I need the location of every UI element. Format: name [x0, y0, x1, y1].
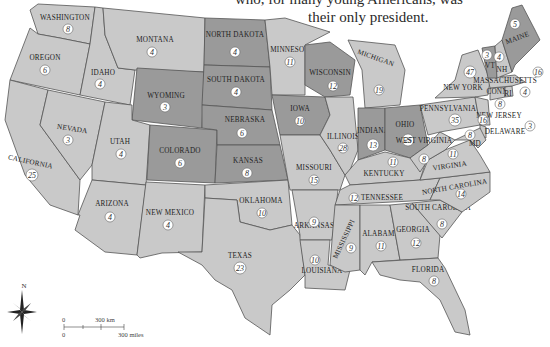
- svg-text:WISCONSIN: WISCONSIN: [309, 69, 351, 77]
- svg-text:IOWA: IOWA: [290, 105, 310, 113]
- svg-text:8: 8: [245, 169, 249, 178]
- svg-text:VT: VT: [485, 62, 495, 70]
- svg-text:NEW YORK: NEW YORK: [443, 84, 483, 92]
- svg-text:UTAH: UTAH: [110, 138, 130, 146]
- svg-text:3: 3: [65, 136, 70, 145]
- svg-text:MASSACHUSETTS: MASSACHUSETTS: [473, 77, 537, 85]
- state-arkansas[interactable]: ARKANSAS 9: [292, 190, 338, 240]
- state-new-mexico[interactable]: NEW MEXICO 4: [137, 182, 205, 258]
- svg-text:25: 25: [28, 171, 36, 180]
- svg-text:12: 12: [329, 82, 337, 91]
- svg-text:4: 4: [119, 150, 123, 159]
- svg-text:6: 6: [178, 159, 182, 168]
- svg-text:8: 8: [498, 100, 502, 109]
- state-montana[interactable]: MONTANA 4: [103, 8, 205, 72]
- svg-text:13: 13: [369, 141, 377, 150]
- state-wisconsin[interactable]: WISCONSIN 12: [305, 42, 355, 97]
- scale-bar: 0 300 km 0 300 miles: [62, 316, 144, 338]
- state-iowa[interactable]: IOWA 10: [272, 95, 330, 135]
- svg-text:14: 14: [457, 190, 465, 199]
- state-kansas[interactable]: KANSAS 8: [215, 145, 288, 183]
- svg-text:4: 4: [497, 53, 501, 62]
- state-colorado[interactable]: COLORADO 6: [147, 125, 217, 183]
- svg-text:4: 4: [108, 213, 112, 222]
- svg-text:GEORGIA: GEORGIA: [396, 226, 430, 234]
- svg-text:SOUTH DAKOTA: SOUTH DAKOTA: [207, 76, 266, 84]
- svg-text:4: 4: [150, 48, 154, 57]
- state-rhode-island[interactable]: RI 4: [504, 86, 530, 98]
- state-north-dakota[interactable]: NORTH DAKOTA 4: [204, 18, 270, 67]
- svg-text:WEST VIRGINIA: WEST VIRGINIA: [396, 137, 453, 145]
- svg-text:19: 19: [375, 86, 383, 95]
- state-south-dakota[interactable]: SOUTH DAKOTA 4: [202, 65, 272, 110]
- svg-text:4: 4: [166, 221, 170, 230]
- svg-text:8: 8: [422, 155, 426, 164]
- svg-text:DELAWARE: DELAWARE: [485, 128, 526, 136]
- svg-text:OHIO: OHIO: [396, 121, 415, 129]
- svg-text:15: 15: [310, 176, 318, 185]
- svg-text:28: 28: [339, 144, 347, 153]
- svg-text:16: 16: [534, 68, 542, 77]
- svg-text:NEBRASKA: NEBRASKA: [225, 116, 266, 124]
- svg-text:COLORADO: COLORADO: [159, 147, 201, 155]
- svg-text:300 km: 300 km: [95, 316, 115, 323]
- svg-text:PENNSYLVANIA: PENNSYLVANIA: [420, 105, 477, 113]
- state-michigan[interactable]: MICHIGAN 19: [348, 40, 405, 108]
- svg-text:WYOMING: WYOMING: [147, 92, 185, 100]
- svg-text:WASHINGTON: WASHINGTON: [40, 14, 90, 22]
- svg-text:12: 12: [412, 239, 420, 248]
- svg-text:10: 10: [258, 209, 266, 218]
- compass-rose-icon: N: [7, 282, 37, 334]
- svg-text:0: 0: [62, 331, 65, 338]
- svg-text:11: 11: [389, 158, 396, 167]
- svg-text:6: 6: [43, 66, 47, 75]
- svg-text:10: 10: [296, 117, 304, 126]
- svg-text:NEW MEXICO: NEW MEXICO: [146, 209, 194, 217]
- svg-text:ARIZONA: ARIZONA: [95, 200, 129, 208]
- svg-text:3: 3: [484, 51, 489, 60]
- svg-text:IDAHO: IDAHO: [91, 69, 115, 77]
- svg-text:0: 0: [62, 316, 65, 323]
- svg-text:OKLAHOMA: OKLAHOMA: [239, 197, 283, 205]
- svg-text:NORTH DAKOTA: NORTH DAKOTA: [206, 31, 265, 39]
- compass-north-label: N: [21, 282, 26, 290]
- svg-text:11: 11: [449, 150, 456, 159]
- svg-text:ILLINOIS: ILLINOIS: [327, 133, 359, 141]
- state-pennsylvania[interactable]: PENNSYLVANIA 35: [420, 97, 480, 135]
- svg-text:NH: NH: [497, 66, 508, 74]
- svg-text:MISSOURI: MISSOURI: [296, 164, 332, 172]
- svg-text:RI: RI: [504, 90, 512, 98]
- svg-text:12: 12: [350, 194, 358, 203]
- svg-text:10: 10: [311, 256, 319, 265]
- svg-text:35: 35: [450, 116, 459, 125]
- svg-text:FLORIDA: FLORIDA: [412, 266, 445, 274]
- us-map: WASHINGTON 8 OREGON 6 CALIFORNIA 25 IDAH…: [0, 0, 550, 347]
- svg-text:TENNESSEE: TENNESSEE: [361, 194, 404, 202]
- svg-text:TEXAS: TEXAS: [228, 252, 252, 260]
- svg-text:47: 47: [466, 68, 475, 77]
- svg-text:8: 8: [66, 25, 70, 34]
- svg-text:3: 3: [162, 103, 167, 112]
- svg-text:23: 23: [236, 264, 244, 273]
- svg-text:9: 9: [349, 244, 353, 253]
- svg-text:3: 3: [527, 122, 532, 131]
- svg-text:8: 8: [432, 277, 436, 286]
- svg-text:8: 8: [440, 220, 444, 229]
- svg-text:MONTANA: MONTANA: [136, 36, 174, 44]
- state-new-york[interactable]: NEW YORK 47: [435, 50, 490, 98]
- state-wyoming[interactable]: WYOMING 3: [132, 68, 204, 128]
- svg-text:OREGON: OREGON: [29, 54, 61, 62]
- svg-text:11: 11: [377, 242, 384, 251]
- svg-text:4: 4: [523, 88, 527, 97]
- svg-text:5: 5: [513, 20, 517, 29]
- svg-text:4: 4: [234, 88, 238, 97]
- svg-text:6: 6: [240, 129, 244, 138]
- svg-text:11: 11: [286, 58, 293, 67]
- state-florida[interactable]: FLORIDA 8: [372, 258, 470, 335]
- svg-text:KENTUCKY: KENTUCKY: [363, 170, 405, 178]
- svg-text:MD: MD: [469, 140, 481, 148]
- state-mississippi[interactable]: MISSISSIPPI 9: [330, 205, 360, 272]
- state-arizona[interactable]: ARIZONA 4: [75, 180, 146, 255]
- svg-text:KANSAS: KANSAS: [233, 157, 263, 165]
- svg-text:8: 8: [468, 131, 472, 140]
